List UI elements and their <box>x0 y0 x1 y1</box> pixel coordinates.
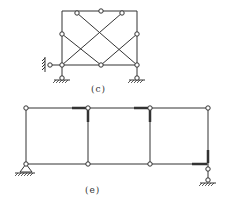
frame-e <box>15 108 216 186</box>
caption-c: (c) <box>91 84 106 94</box>
caption-e: (e) <box>85 185 100 195</box>
diagram-canvas <box>0 0 233 205</box>
hinge-icons <box>24 9 210 182</box>
structural-diagrams: (c) (e) <box>0 0 233 205</box>
frame-c <box>42 11 145 83</box>
